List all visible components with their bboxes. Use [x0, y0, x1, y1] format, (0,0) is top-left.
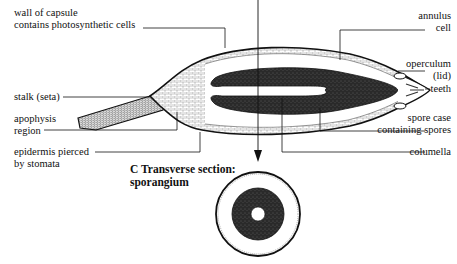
label-operculum: operculum (lid) — [406, 58, 451, 82]
label-text: operculum — [406, 58, 451, 70]
label-teeth: teeth — [431, 83, 451, 95]
label-text: annulus — [418, 10, 451, 22]
label-text: region — [14, 125, 56, 137]
label-text: spore case — [377, 112, 451, 124]
label-text: apophysis — [14, 113, 56, 125]
label-columella: columella — [410, 146, 451, 158]
label-wall-of-capsule: wall of capsule contains photosynthetic … — [14, 7, 135, 31]
stalk-shape — [78, 96, 165, 130]
label-epidermis: epidermis pierced by stomata — [14, 146, 89, 170]
label-spore-case: spore case containing spores — [377, 112, 451, 136]
label-text: cell — [418, 22, 451, 34]
label-text: epidermis pierced — [14, 146, 89, 158]
label-text: (lid) — [406, 70, 451, 82]
section-title: C Transverse section: sporangium — [130, 163, 236, 189]
label-stalk: stalk (seta) — [14, 91, 60, 103]
section-title-line: sporangium — [130, 176, 236, 189]
section-title-line: C Transverse section: — [130, 163, 236, 176]
label-text: wall of capsule — [14, 7, 135, 19]
label-apophysis: apophysis region — [14, 113, 56, 137]
label-text: contains photosynthetic cells — [14, 19, 135, 31]
label-text: containing spores — [377, 124, 451, 136]
label-text: by stomata — [14, 158, 89, 170]
label-annulus: annulus cell — [418, 10, 451, 34]
